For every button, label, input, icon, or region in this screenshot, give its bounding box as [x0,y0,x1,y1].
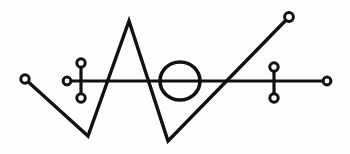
sigil-figure [0,0,350,154]
axis-right-terminal-node [323,77,331,85]
left-terminal-node [21,75,29,83]
right-cross-bottom-node [270,94,278,102]
right-cross-top-node [270,63,278,71]
left-cross-top-node [77,59,85,67]
left-cross-bottom-node [77,94,85,102]
upper-right-terminal-node [285,13,294,22]
sigil-canvas [0,0,350,154]
nodes-group [21,13,331,103]
axis-left-terminal-node [63,77,71,85]
